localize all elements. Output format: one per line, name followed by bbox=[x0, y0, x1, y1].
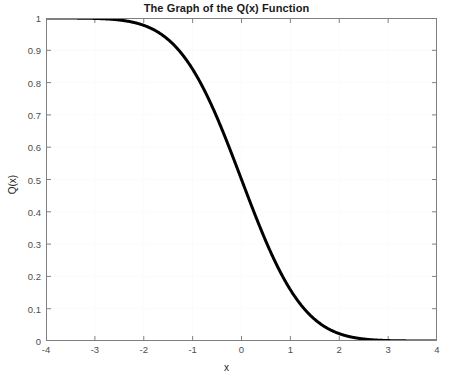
y-tick-label: 0.8 bbox=[1, 77, 41, 88]
y-tick-label: 0.2 bbox=[1, 271, 41, 282]
y-tick-label: 0.9 bbox=[1, 45, 41, 56]
y-tick-label: 0.3 bbox=[1, 239, 41, 250]
x-tick-label: 1 bbox=[275, 344, 305, 355]
page-title: The Graph of the Q(x) Function bbox=[0, 2, 453, 14]
x-tick-label: 3 bbox=[373, 344, 403, 355]
x-tick-label: -4 bbox=[31, 344, 61, 355]
plot-area bbox=[46, 18, 437, 341]
x-axis-label: x bbox=[0, 362, 453, 373]
y-tick-label: 0.6 bbox=[1, 142, 41, 153]
x-tick-label: 4 bbox=[422, 344, 452, 355]
x-tick-label: -1 bbox=[178, 344, 208, 355]
x-tick-label: -3 bbox=[80, 344, 110, 355]
x-tick-label: 0 bbox=[227, 344, 257, 355]
y-axis-label: Q(x) bbox=[7, 155, 18, 215]
y-tick-label: 1 bbox=[1, 13, 41, 24]
y-tick-label: 0.7 bbox=[1, 109, 41, 120]
x-tick-label: -2 bbox=[129, 344, 159, 355]
figure-canvas: The Graph of the Q(x) Function 00.10.20.… bbox=[0, 0, 453, 383]
plot-svg bbox=[46, 18, 437, 341]
y-tick-label: 0.1 bbox=[1, 303, 41, 314]
x-tick-label: 2 bbox=[324, 344, 354, 355]
